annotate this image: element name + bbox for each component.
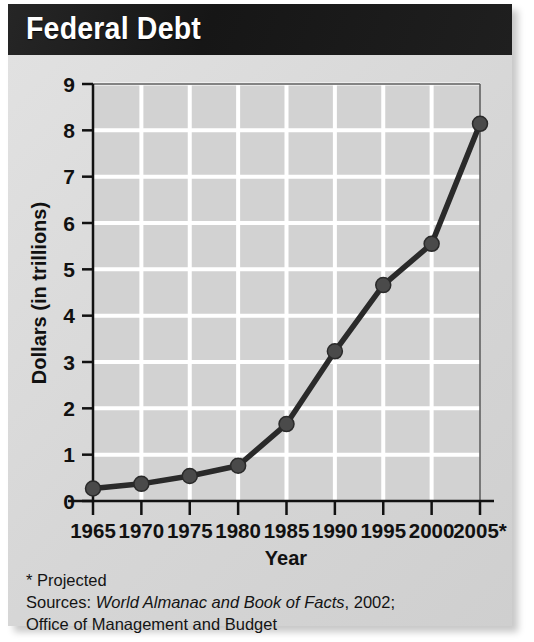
chart-page: Federal Debt 0123456789 1965197019751980… <box>0 0 534 642</box>
x-tick-label: 1990 <box>312 519 358 542</box>
x-axis-title: Year <box>265 547 307 569</box>
data-point-marker <box>376 278 391 293</box>
x-tick-label: 1980 <box>215 519 261 542</box>
y-tick-label: 8 <box>63 119 75 142</box>
x-tick-label: 2005* <box>453 519 507 542</box>
data-point-marker <box>182 468 197 483</box>
x-tick-label: 1975 <box>167 519 213 542</box>
data-point-marker <box>473 116 488 131</box>
sources-line-1: Sources: World Almanac and Book of Facts… <box>26 592 496 614</box>
x-tick-label: 1995 <box>360 519 406 542</box>
source-year: , 2002; <box>345 593 395 611</box>
y-axis-title: Dollars (in trillions) <box>28 202 50 384</box>
x-tick-label: 1985 <box>264 519 310 542</box>
source-title: World Almanac and Book of Facts <box>96 593 345 611</box>
sources-line-2: Office of Management and Budget <box>26 614 496 636</box>
y-tick-label: 7 <box>63 165 75 188</box>
page-title: Federal Debt <box>26 11 201 47</box>
data-point-marker <box>279 417 294 432</box>
x-axis-ticks: 196519701975198019851990199520002005* <box>70 501 507 542</box>
y-tick-label: 4 <box>63 304 75 327</box>
chart-area: 0123456789 19651970197519801985199019952… <box>8 55 512 626</box>
y-tick-label: 9 <box>63 73 75 96</box>
sources-label: Sources: <box>26 593 91 611</box>
projected-note: * Projected <box>26 570 496 592</box>
data-point-marker <box>86 481 101 496</box>
x-tick-label: 1970 <box>119 519 165 542</box>
y-tick-label: 0 <box>63 490 75 513</box>
title-banner: Federal Debt <box>8 4 512 55</box>
federal-debt-line-chart: 0123456789 19651970197519801985199019952… <box>8 55 512 626</box>
data-point-marker <box>424 236 439 251</box>
y-axis-ticks: 0123456789 <box>63 73 93 513</box>
chart-card: Federal Debt 0123456789 1965197019751980… <box>8 4 512 626</box>
y-tick-label: 1 <box>63 443 75 466</box>
data-point-marker <box>134 476 149 491</box>
x-tick-label: 2000 <box>409 519 455 542</box>
y-tick-label: 3 <box>63 351 75 374</box>
data-point-marker <box>231 458 246 473</box>
footnote-block: * Projected Sources: World Almanac and B… <box>26 570 496 636</box>
data-point-marker <box>327 344 342 359</box>
y-tick-label: 2 <box>63 397 75 420</box>
x-tick-label: 1965 <box>70 519 116 542</box>
y-tick-label: 6 <box>63 212 75 235</box>
y-tick-label: 5 <box>63 258 75 281</box>
